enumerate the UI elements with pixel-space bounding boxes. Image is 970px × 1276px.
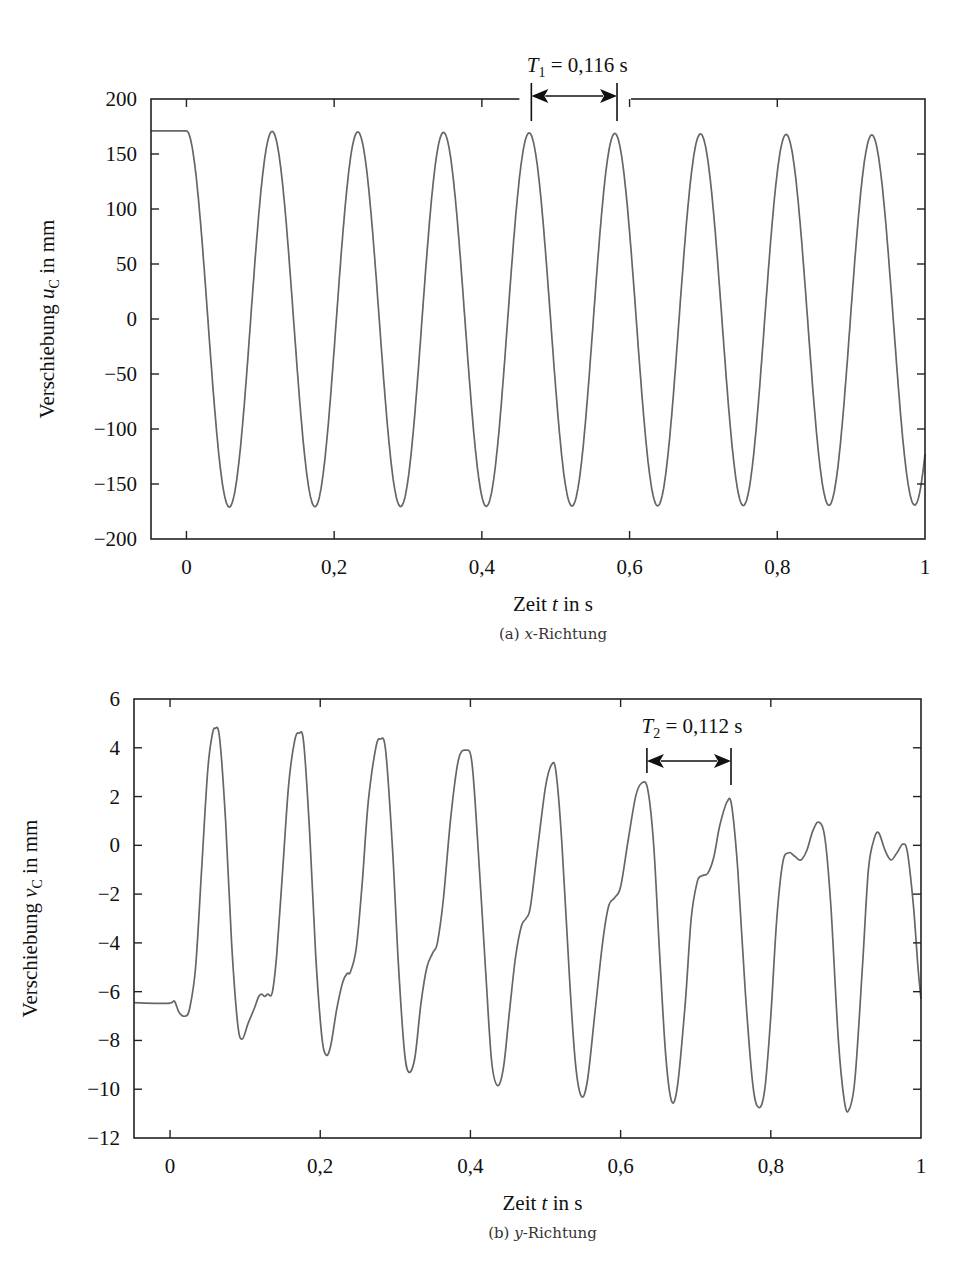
figure: 00,20,40,60,81200150100500−50−100−150−20… bbox=[0, 0, 970, 1276]
period-annotation-T1: T1 = 0,116 s bbox=[527, 53, 628, 121]
y-tick-label: −2 bbox=[98, 882, 120, 906]
period-label: T2 = 0,112 s bbox=[641, 714, 742, 741]
x-tick-label: 0,2 bbox=[307, 1154, 333, 1178]
x-axis-label: Zeit t in s bbox=[513, 592, 593, 616]
y-tick-label: −200 bbox=[94, 527, 137, 551]
x-tick-label: 1 bbox=[916, 1154, 927, 1178]
y-tick-label: −6 bbox=[98, 980, 120, 1004]
displacement-u-curve bbox=[151, 131, 925, 507]
chart-x-direction: 00,20,40,60,81200150100500−50−100−150−20… bbox=[35, 53, 930, 643]
axis-ticks: 00,20,40,60,81200150100500−50−100−150−20… bbox=[94, 87, 931, 579]
x-tick-label: 0,6 bbox=[616, 555, 642, 579]
x-tick-label: 0,2 bbox=[321, 555, 347, 579]
y-tick-label: 0 bbox=[127, 307, 138, 331]
x-tick-label: 0,8 bbox=[764, 555, 790, 579]
period-annotation-T2: T2 = 0,112 s bbox=[641, 714, 742, 785]
y-tick-label: −12 bbox=[87, 1126, 120, 1150]
period-label: T1 = 0,116 s bbox=[527, 53, 628, 80]
subfigure-caption: (b) y-Richtung bbox=[488, 1224, 597, 1242]
y-axis-label: Verschiebung uC in mm bbox=[35, 220, 62, 419]
plot-frame bbox=[134, 699, 921, 1138]
x-tick-label: 0,8 bbox=[758, 1154, 784, 1178]
x-tick-label: 1 bbox=[920, 555, 931, 579]
y-tick-label: −50 bbox=[104, 362, 137, 386]
x-axis-label: Zeit t in s bbox=[503, 1191, 583, 1215]
y-tick-label: −8 bbox=[98, 1028, 120, 1052]
x-tick-label: 0,6 bbox=[607, 1154, 633, 1178]
y-tick-label: 100 bbox=[106, 197, 138, 221]
y-tick-label: 200 bbox=[106, 87, 138, 111]
x-tick-label: 0 bbox=[165, 1154, 176, 1178]
y-tick-label: 150 bbox=[106, 142, 138, 166]
y-tick-label: −4 bbox=[98, 931, 121, 955]
subfigure-caption: (a) x-Richtung bbox=[499, 625, 607, 643]
double-arrow-icon bbox=[647, 748, 731, 785]
y-tick-label: −100 bbox=[94, 417, 137, 441]
x-tick-label: 0,4 bbox=[457, 1154, 484, 1178]
displacement-v-curve bbox=[134, 727, 921, 1112]
y-tick-label: −150 bbox=[94, 472, 137, 496]
data-line bbox=[151, 131, 925, 507]
y-tick-label: 4 bbox=[110, 736, 121, 760]
y-axis-label: Verschiebung vC in mm bbox=[18, 820, 45, 1018]
y-tick-label: 2 bbox=[110, 785, 121, 809]
x-tick-label: 0,4 bbox=[469, 555, 496, 579]
data-line bbox=[134, 727, 921, 1112]
y-tick-label: 6 bbox=[110, 687, 121, 711]
y-tick-label: 50 bbox=[116, 252, 137, 276]
chart-y-direction: 00,20,40,60,816420−2−4−6−8−10−12 T2 = 0,… bbox=[18, 687, 926, 1242]
y-tick-label: 0 bbox=[110, 833, 121, 857]
axis-ticks: 00,20,40,60,816420−2−4−6−8−10−12 bbox=[87, 687, 926, 1178]
x-tick-label: 0 bbox=[181, 555, 192, 579]
y-tick-label: −10 bbox=[87, 1077, 120, 1101]
